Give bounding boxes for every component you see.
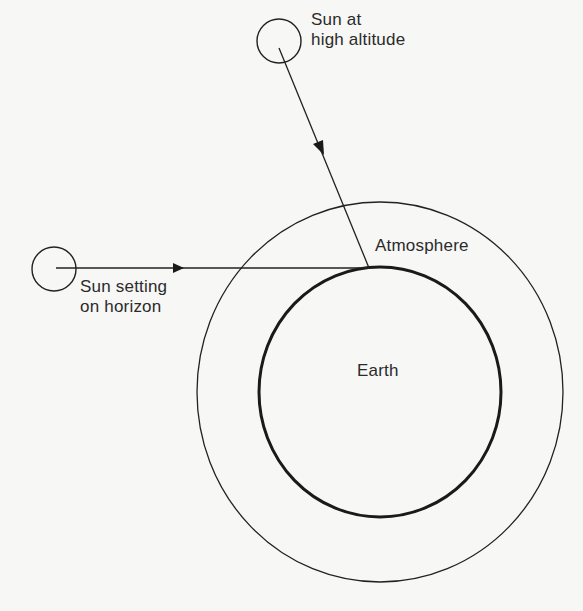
sun-horizon-label: Sun setting on horizon	[80, 277, 167, 317]
sun-horizon-icon	[32, 247, 76, 291]
sun-horizon-label-line2: on horizon	[80, 297, 167, 317]
atmosphere-label: Atmosphere	[375, 236, 469, 256]
sun-horizon-label-line1: Sun setting	[80, 277, 167, 297]
sun-high-ray	[279, 48, 369, 268]
sun-high-label-line1: Sun at	[311, 10, 405, 30]
sun-high-arrowhead-icon	[313, 140, 324, 155]
earth-circle	[259, 267, 501, 517]
sun-high-label-line2: high altitude	[311, 30, 405, 50]
sun-horizon-arrowhead-icon	[173, 263, 184, 273]
sun-high-altitude-label: Sun at high altitude	[311, 10, 405, 50]
sun-high-altitude-icon	[257, 19, 301, 63]
atmosphere-circle	[197, 202, 563, 582]
earth-label: Earth	[357, 361, 399, 381]
